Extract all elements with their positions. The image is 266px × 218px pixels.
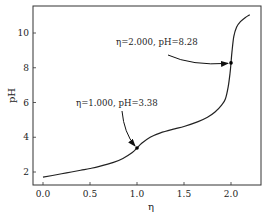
y-tick-label: 4: [23, 132, 29, 142]
y-axis-label: pH: [6, 88, 17, 103]
x-tick-label: 1.0: [130, 189, 145, 199]
y-tick-label: 10: [18, 28, 30, 38]
x-tick-label: 2.0: [224, 189, 239, 199]
x-axis-label: η: [148, 201, 154, 212]
annotation-eta-1: η=1.000, pH=3.38: [76, 98, 158, 108]
annotation-eta-2: η=2.000, pH=8.28: [116, 37, 198, 47]
data-point-marker: [135, 146, 139, 150]
annotation-arrow-2: [168, 55, 228, 64]
y-tick-label: 6: [23, 98, 29, 108]
y-tick-label: 8: [23, 63, 29, 73]
x-tick-label: 1.5: [177, 189, 192, 199]
x-tick-label: 0.0: [36, 189, 51, 199]
x-tick-label: 0.5: [83, 189, 98, 199]
annotations: η=1.000, pH=3.38η=2.000, pH=8.28: [76, 37, 233, 150]
y-tick-label: 2: [23, 167, 29, 177]
data-point-marker: [229, 61, 233, 65]
annotation-arrow-1: [122, 111, 135, 146]
titration-chart: 0.00.51.01.52.0 246810 η=1.000, pH=3.38η…: [0, 0, 266, 218]
